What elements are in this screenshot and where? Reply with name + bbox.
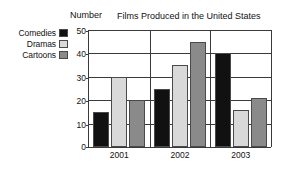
y-tick-label: 40: [77, 49, 86, 59]
legend-swatch-cartoons: [59, 51, 68, 59]
bar-comedies-2001: [93, 112, 109, 147]
bar-cartoons-2003: [251, 98, 267, 147]
bar-dramas-2002: [172, 65, 188, 147]
legend-item-comedies: Comedies: [2, 28, 68, 38]
y-tick-label: 50: [77, 26, 86, 36]
legend-label-cartoons: Cartoons: [22, 51, 56, 60]
legend-swatch-dramas: [59, 40, 68, 48]
legend-label-comedies: Comedies: [19, 29, 56, 38]
bar-chart: Comedies Dramas Cartoons Number Films Pr…: [0, 0, 287, 172]
chart-legend: Comedies Dramas Cartoons: [2, 28, 68, 61]
chart-title: Films Produced in the United States: [117, 11, 261, 21]
legend-item-cartoons: Cartoons: [2, 50, 68, 60]
x-tick-label-2003: 2003: [231, 150, 250, 160]
legend-swatch-comedies: [59, 29, 68, 37]
y-tick-label: 30: [77, 73, 86, 83]
bar-dramas-2003: [233, 110, 249, 147]
y-tick-label: 10: [77, 120, 86, 130]
legend-label-dramas: Dramas: [27, 40, 56, 49]
group-separator: [271, 30, 272, 147]
x-tick-label-2002: 2002: [171, 150, 190, 160]
bar-cartoons-2002: [190, 42, 206, 147]
y-tick-label: 20: [77, 96, 86, 106]
plot-area: 01020304050 200120022003: [88, 30, 271, 148]
legend-item-dramas: Dramas: [2, 39, 68, 49]
bar-cartoons-2001: [129, 100, 145, 147]
bar-dramas-2001: [111, 77, 127, 147]
x-tick-label-2001: 2001: [110, 150, 129, 160]
y-axis-title: Number: [70, 10, 102, 20]
bars-container: [89, 30, 271, 147]
y-tick-mark: [86, 147, 89, 148]
bar-comedies-2003: [215, 53, 231, 147]
bar-comedies-2002: [154, 89, 170, 148]
